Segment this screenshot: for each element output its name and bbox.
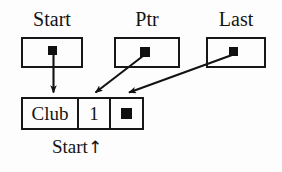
last-pointer-dot xyxy=(229,47,238,56)
node-dereference-caption: Start↑ xyxy=(52,137,102,157)
up-arrow-icon: ↑ xyxy=(88,137,102,157)
node-data-cell: Club xyxy=(21,97,78,130)
last-variable-label: Last xyxy=(206,9,266,29)
node-next-cell xyxy=(110,97,144,130)
node-key-cell: 1 xyxy=(78,97,110,130)
linked-list-diagram: Start Ptr Last Club 1 Start↑ xyxy=(0,0,282,172)
ptr-pointer-dot xyxy=(140,47,150,57)
nil-dot-icon xyxy=(121,108,132,119)
deref-caption-text: Start xyxy=(52,136,88,157)
start-variable-label: Start xyxy=(21,9,83,29)
ptr-variable-label: Ptr xyxy=(114,9,180,29)
start-pointer-dot xyxy=(48,46,57,55)
